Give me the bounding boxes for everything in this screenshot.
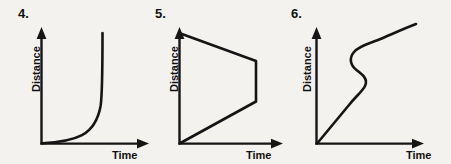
graph-6-curve bbox=[318, 24, 417, 143]
y-axis-label-5: Distance bbox=[169, 46, 180, 92]
graph-5-curve bbox=[181, 34, 257, 144]
x-axis-arrow-5 bbox=[271, 139, 283, 149]
graph-4-curve bbox=[43, 33, 103, 143]
graph-panel-5: 5. Distance Time bbox=[146, 0, 292, 164]
graph-4-plot bbox=[0, 0, 150, 164]
worksheet-page: 4. Distance Time 5. Distance Time bbox=[0, 0, 451, 164]
y-axis-arrow-6 bbox=[312, 27, 322, 39]
y-axis-label-4: Distance bbox=[31, 46, 42, 92]
x-axis-arrow-6 bbox=[412, 139, 424, 149]
y-axis-label-6: Distance bbox=[302, 46, 313, 92]
x-axis-label-6: Time bbox=[406, 150, 431, 161]
graph-panel-4: 4. Distance Time bbox=[0, 0, 150, 164]
graph-panel-6: 6. Distance Time bbox=[286, 0, 451, 164]
x-axis-label-4: Time bbox=[112, 150, 137, 161]
y-axis-arrow-4 bbox=[37, 27, 47, 39]
x-axis-label-5: Time bbox=[246, 150, 271, 161]
